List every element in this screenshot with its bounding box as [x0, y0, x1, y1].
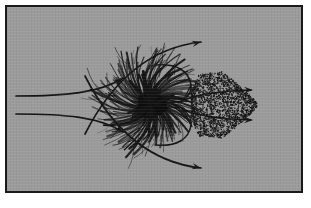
figure-root	[0, 0, 311, 208]
figure-frame	[5, 5, 303, 193]
flow-diagram-canvas	[7, 7, 301, 191]
